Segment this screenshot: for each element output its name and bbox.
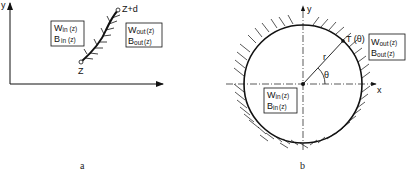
center-point <box>301 82 305 86</box>
radius-label: r <box>323 52 326 62</box>
caption-a: a <box>80 160 85 171</box>
boundary-curve <box>79 8 120 64</box>
x-axis-label: x <box>377 85 382 95</box>
end-point-label: Z+d <box>122 4 138 14</box>
caption-b: b <box>300 160 305 171</box>
inner-field-box: Win(z) Bin(z) <box>51 21 84 46</box>
panel-b: y x <box>226 4 405 171</box>
y-axis-label: y <box>1 0 6 10</box>
point-t <box>341 39 345 43</box>
outer-field-box: Wout(z) Bout(z) <box>369 34 405 60</box>
diagram-canvas: y Z Z+d W <box>0 0 408 173</box>
end-point <box>116 8 120 12</box>
panel-a: y Z Z+d W <box>1 0 163 171</box>
start-point <box>79 60 83 64</box>
angle-label: θ <box>324 70 329 80</box>
outer-field-box: Wout(z) Bout(z) <box>126 23 162 47</box>
start-point-label: Z <box>78 66 84 76</box>
point-t-label: T (θ) <box>346 34 365 44</box>
inner-field-box: Win(z) Bin(z) <box>264 88 297 113</box>
y-axis-label: y <box>307 4 312 14</box>
radius-line <box>303 41 343 84</box>
